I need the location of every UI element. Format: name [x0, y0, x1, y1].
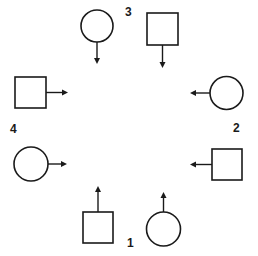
left-circle-group	[14, 147, 67, 181]
bottom-square-group	[83, 186, 113, 243]
top-square-group	[147, 13, 178, 68]
position-label-1: 1	[127, 236, 134, 250]
bottom-square	[83, 212, 113, 243]
bottom-circle-group	[147, 192, 181, 246]
right-square	[212, 149, 242, 180]
arrow-right-icon	[61, 161, 67, 167]
right-circle-group	[190, 77, 243, 110]
position-label-3: 3	[125, 5, 132, 19]
arrow-up-icon	[161, 192, 167, 198]
arrow-left-icon	[190, 162, 196, 168]
top-circle-group	[81, 10, 113, 64]
left-circle	[14, 147, 48, 181]
arrow-up-icon	[95, 186, 101, 192]
left-square	[15, 77, 46, 108]
left-square-group	[15, 77, 68, 108]
arrow-right-icon	[62, 90, 68, 96]
right-square-group	[190, 149, 242, 180]
position-label-4: 4	[10, 122, 17, 136]
arrow-left-icon	[190, 90, 196, 96]
ring-diagram: 3 2 1 4	[0, 0, 258, 256]
bottom-circle	[147, 212, 181, 246]
arrow-down-icon	[94, 58, 100, 64]
top-square	[147, 13, 178, 45]
top-circle	[81, 10, 113, 42]
position-label-2: 2	[233, 121, 240, 135]
arrow-down-icon	[160, 62, 166, 68]
right-circle	[210, 77, 243, 110]
